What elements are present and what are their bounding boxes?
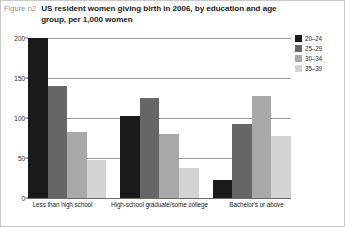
- x-axis-line: [28, 198, 291, 199]
- legend-item[interactable]: 20–24: [295, 33, 343, 43]
- y-tick-label: 0: [21, 195, 25, 202]
- bar[interactable]: [67, 132, 87, 198]
- legend-label: 20–24: [305, 35, 322, 42]
- bar[interactable]: [232, 124, 252, 198]
- legend-swatch-icon: [295, 45, 302, 52]
- bar[interactable]: [252, 96, 272, 198]
- bar[interactable]: [87, 160, 107, 198]
- bar[interactable]: [159, 134, 179, 198]
- bar[interactable]: [28, 38, 48, 198]
- group-spacer: [199, 38, 213, 198]
- bar[interactable]: [48, 86, 68, 198]
- figure-number: Figure n2: [4, 3, 36, 13]
- legend-label: 25–29: [305, 45, 322, 52]
- chart-legend: 20–2425–2930–3435–39: [295, 33, 343, 74]
- legend-swatch-icon: [295, 35, 302, 42]
- bar[interactable]: [179, 168, 199, 198]
- legend-item[interactable]: 35–39: [295, 64, 343, 74]
- y-tick-label: 100: [14, 115, 25, 122]
- legend-label: 35–39: [305, 65, 322, 72]
- figure-heading: Figure n2 US resident women giving birth…: [4, 3, 341, 25]
- bar-groups: [28, 38, 291, 198]
- legend-swatch-icon: [295, 55, 302, 62]
- x-axis-label: High-school graduate/some college: [111, 201, 208, 208]
- y-tick-label: 150: [14, 75, 25, 82]
- group-spacer: [106, 38, 120, 198]
- x-axis-label: Less than high school: [28, 201, 97, 208]
- bar-group: [28, 38, 106, 198]
- x-axis-label: Bachelor's or above: [222, 201, 291, 208]
- legend-label: 30–34: [305, 55, 322, 62]
- y-tick-label: 200: [14, 35, 25, 42]
- y-tick-label: 50: [18, 155, 25, 162]
- figure-container: Figure n2 US resident women giving birth…: [0, 0, 345, 227]
- bar-group: [213, 38, 291, 198]
- bar-group: [120, 38, 198, 198]
- legend-item[interactable]: 30–34: [295, 53, 343, 63]
- x-label-spacer: [97, 201, 111, 208]
- x-label-spacer: [208, 201, 222, 208]
- plot-area: 050100150200: [28, 38, 291, 198]
- legend-swatch-icon: [295, 65, 302, 72]
- legend-item[interactable]: 25–29: [295, 43, 343, 53]
- bar[interactable]: [140, 98, 160, 198]
- bar[interactable]: [271, 136, 291, 198]
- figure-title: US resident women giving birth in 2006, …: [41, 3, 286, 25]
- x-axis-labels: Less than high schoolHigh-school graduat…: [28, 201, 291, 208]
- bar[interactable]: [120, 116, 140, 198]
- bar[interactable]: [213, 180, 233, 198]
